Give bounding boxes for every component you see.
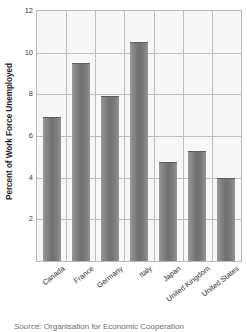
y-axis-title: Percent of Work Force Unemployed [0,0,18,262]
source-text: Organisation for Economic Cooperation [44,322,184,331]
bar-chart-figure: Percent of Work Force Unemployed 2468101… [0,0,247,332]
y-tick-label: 4 [29,172,33,181]
bar [101,96,119,261]
x-tick-label: France [72,264,96,285]
y-tick-label: 2 [29,214,33,223]
bar [188,151,206,261]
bar [217,178,235,261]
bar [72,63,90,261]
y-axis-title-text: Percent of Work Force Unemployed [5,62,14,199]
plot-area [36,10,242,262]
x-tick-label: Germany [95,264,125,290]
y-tick-label: 6 [29,131,33,140]
x-tick-label: Canada [40,264,66,287]
x-tick-label: Japan [161,264,182,283]
y-tick-label: 10 [25,47,33,56]
y-axis-tick-labels: 24681012 [17,10,35,262]
x-tick-label: Italy [137,264,153,279]
bar [43,117,61,261]
bar [159,162,177,261]
source-note: Source: Organisation for Economic Cooper… [14,322,247,332]
y-tick-label: 12 [25,6,33,15]
y-tick-label: 8 [29,89,33,98]
bar [130,42,148,261]
x-axis-tick-labels: CanadaFranceGermanyItalyJapanUnited King… [36,262,242,320]
source-label: Source: [14,322,42,331]
bars-layer [37,11,241,261]
